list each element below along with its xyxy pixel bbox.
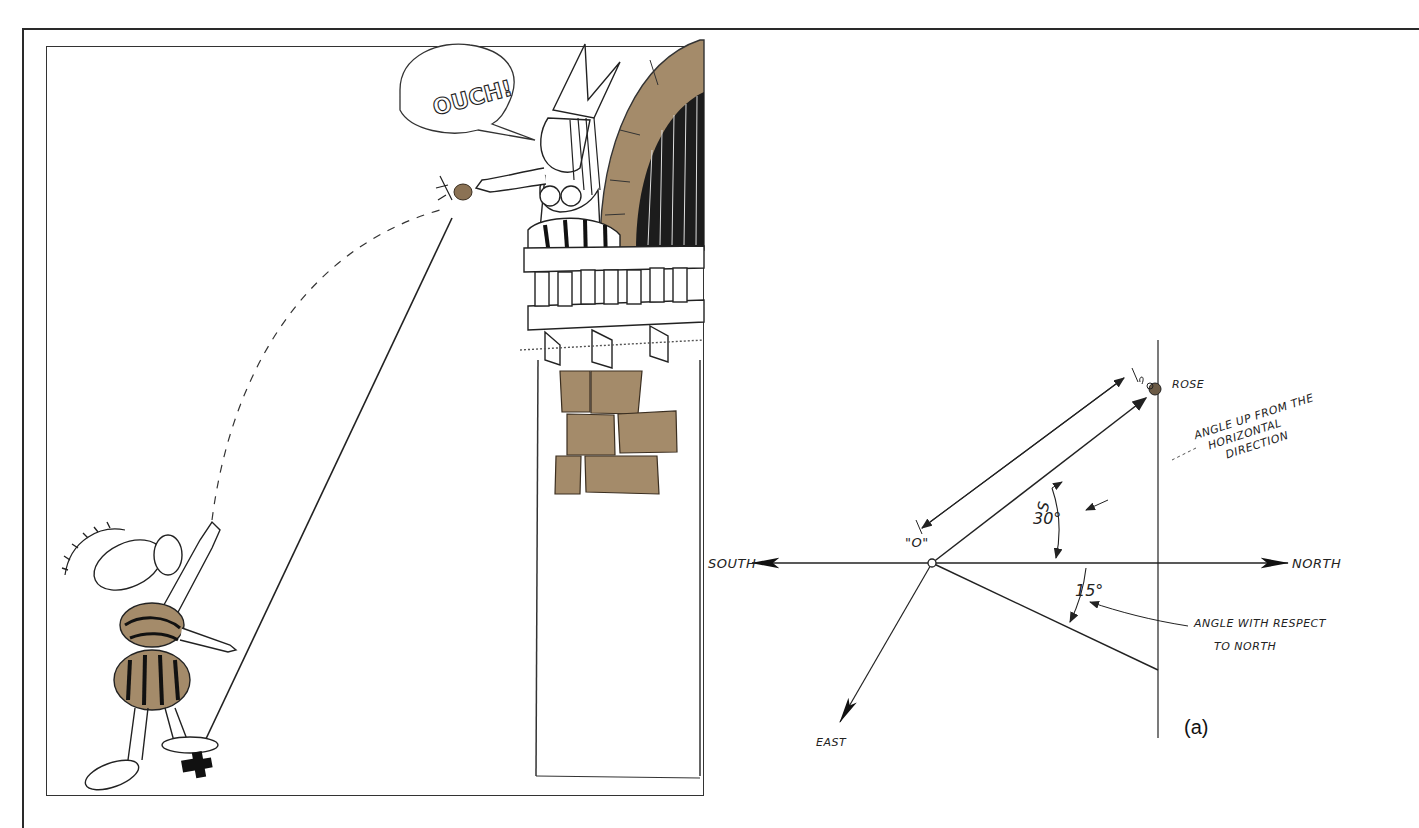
label-rose: ROSE bbox=[1172, 378, 1204, 391]
label-azimuth-angle: 15° bbox=[1075, 581, 1103, 600]
horizontal-projection-line bbox=[932, 563, 1158, 670]
balcony bbox=[520, 246, 704, 368]
tower bbox=[536, 360, 700, 778]
throw-trajectory bbox=[212, 210, 440, 520]
vector-s bbox=[932, 398, 1146, 563]
label-east: EAST bbox=[816, 736, 847, 749]
east-axis bbox=[840, 563, 932, 722]
speech-bubble: OUCH! bbox=[400, 44, 535, 140]
origin-point bbox=[928, 559, 936, 567]
rose bbox=[436, 176, 472, 200]
panel-label: (a) bbox=[1184, 716, 1208, 738]
vector-diagram: SOUTH NORTH EAST "O" S ROSE 30° 15° ANGL… bbox=[708, 340, 1341, 749]
elevation-annotation: ANGLE UP FROM THE HORIZONTAL DIRECTION bbox=[1192, 391, 1325, 469]
label-origin: "O" bbox=[905, 535, 929, 550]
label-north: NORTH bbox=[1292, 556, 1341, 571]
tower-bricks bbox=[555, 371, 677, 494]
displacement-line bbox=[196, 218, 452, 760]
cartoon-illustration: OUCH! bbox=[62, 40, 704, 796]
label-elevation-angle: 30° bbox=[1033, 509, 1061, 528]
dimension-line-end bbox=[922, 378, 1124, 528]
thrower bbox=[62, 522, 236, 796]
label-south: SOUTH bbox=[708, 556, 756, 571]
x-mark-origin bbox=[180, 750, 214, 781]
azimuth-annotation-line2: TO NORTH bbox=[1214, 640, 1276, 653]
azimuth-annotation-line1: ANGLE WITH RESPECT bbox=[1193, 617, 1327, 630]
